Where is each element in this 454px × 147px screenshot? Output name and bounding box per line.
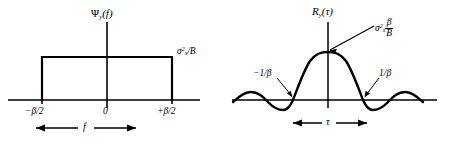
f-arrow-head-left [36, 125, 45, 132]
acf-left-zero-leader-arrowhead [287, 91, 293, 98]
acf-peak-value-label: σ2xβB [375, 18, 393, 39]
f-arrow-head-right [127, 125, 136, 132]
acf-y-axis-title: Ry(τ) [312, 6, 333, 19]
acf-lag-axis-arrow-label: τ [326, 117, 330, 127]
psd-tick-label-lower: −β/2 [25, 107, 44, 117]
acf-peak-fraction-denominator: B [385, 29, 393, 39]
psd-tick-label-upper: +β/2 [157, 107, 176, 117]
psd-y-axis-title-argument: (f) [102, 7, 112, 19]
psd-panel: Ψy(f) σ2x/B −β/2 0 +β/2 f [0, 0, 227, 147]
psd-level-label: σ2x/B [177, 47, 196, 57]
acf-y-axis-title-symbol: R [312, 5, 319, 17]
f-label-backdrop [78, 122, 94, 134]
psd-y-axis-title: Ψy(f) [91, 8, 113, 21]
acf-peak-fraction: βB [385, 18, 393, 39]
psd-frequency-axis-arrow-label: f [83, 122, 86, 132]
tau-arrow-head-right [358, 120, 367, 127]
psd-level-tail: /B [187, 46, 195, 56]
acf-y-axis-title-argument: (τ) [322, 5, 333, 17]
figure-root: Ψy(f) σ2x/B −β/2 0 +β/2 f [0, 0, 454, 147]
autocorrelation-panel: Ry(τ) σ2xβB −1/β 1/β τ [227, 0, 454, 147]
tau-arrow-head-left [293, 120, 302, 127]
psd-plot-svg [0, 0, 227, 147]
psd-y-axis-title-symbol: Ψ [91, 7, 99, 19]
acf-right-zero-crossing-label: 1/β [379, 69, 391, 79]
acf-right-zero-leader-arrowhead [365, 91, 371, 98]
acf-left-zero-crossing-label: −1/β [253, 69, 272, 79]
psd-tick-label-origin: 0 [103, 107, 108, 117]
acf-peak-leader-line [330, 26, 374, 50]
